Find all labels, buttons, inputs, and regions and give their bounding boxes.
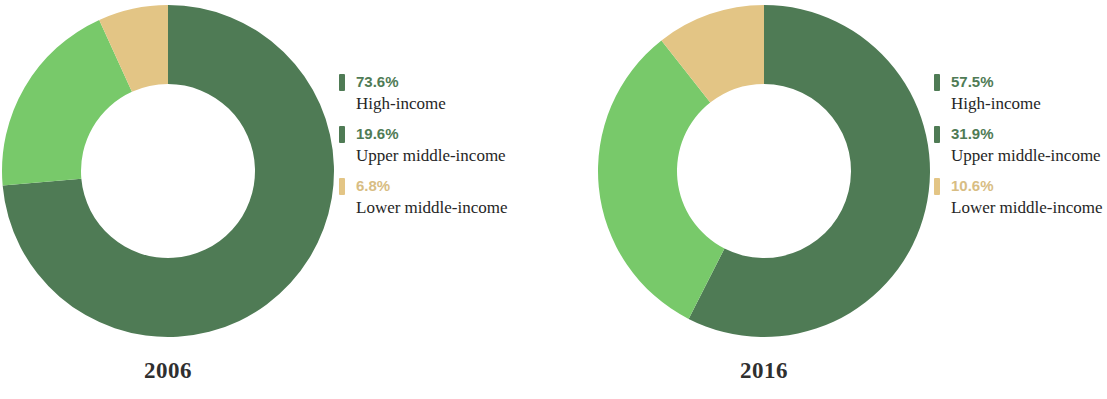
legend-item: 6.8% Lower middle-income <box>339 176 519 219</box>
legend-item: 57.5% High-income <box>934 72 1107 115</box>
legend-2006: 73.6% High-income 19.6% Upper middle-inc… <box>339 72 519 228</box>
legend-swatch-icon <box>934 74 940 91</box>
chart-panel-2016: 2016 57.5% High-income 31.9% Upper middl… <box>534 0 1068 399</box>
legend-2016: 57.5% High-income 31.9% Upper middle-inc… <box>934 72 1107 228</box>
legend-label: Lower middle-income <box>356 196 519 219</box>
legend-swatch-icon <box>934 126 940 143</box>
legend-percent: 57.5% <box>951 72 1107 91</box>
legend-swatch-icon <box>339 74 345 91</box>
legend-percent: 19.6% <box>356 124 519 143</box>
donut-chart-2006 <box>0 3 336 339</box>
year-label-2006: 2006 <box>0 358 336 384</box>
legend-swatch-icon <box>934 178 940 195</box>
donut-slices-2006 <box>2 5 334 337</box>
legend-label: High-income <box>951 92 1107 115</box>
legend-label: High-income <box>356 92 519 115</box>
legend-item: 10.6% Lower middle-income <box>934 176 1107 219</box>
legend-label: Upper middle-income <box>356 144 519 167</box>
legend-item: 19.6% Upper middle-income <box>339 124 519 167</box>
legend-percent: 6.8% <box>356 176 519 195</box>
year-label-2016: 2016 <box>596 358 932 384</box>
legend-swatch-icon <box>339 126 345 143</box>
donut-svg-2016 <box>596 3 932 339</box>
donut-svg-2006 <box>0 3 336 339</box>
legend-item: 31.9% Upper middle-income <box>934 124 1107 167</box>
legend-label: Upper middle-income <box>951 144 1107 167</box>
legend-percent: 73.6% <box>356 72 519 91</box>
legend-swatch-icon <box>339 178 345 195</box>
donut-slices-2016 <box>598 5 930 337</box>
donut-chart-2016 <box>596 3 932 339</box>
chart-panel-2006: 2006 73.6% High-income 19.6% Upper middl… <box>0 0 534 399</box>
legend-label: Lower middle-income <box>951 196 1107 219</box>
legend-item: 73.6% High-income <box>339 72 519 115</box>
legend-percent: 31.9% <box>951 124 1107 143</box>
legend-percent: 10.6% <box>951 176 1107 195</box>
